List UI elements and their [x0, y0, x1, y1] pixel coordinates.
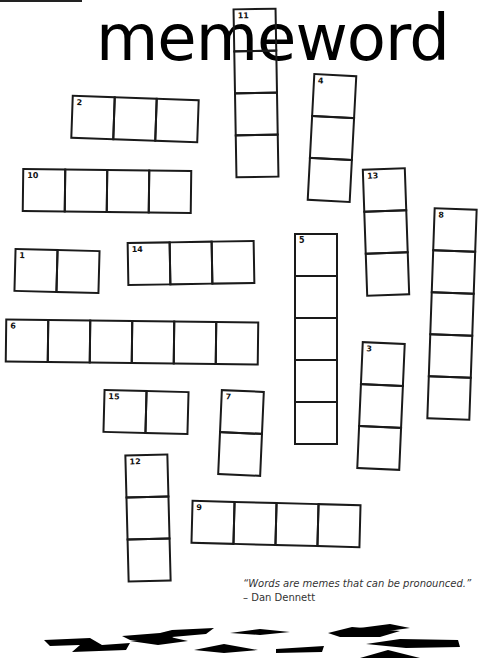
cell[interactable]	[154, 98, 200, 144]
word-15-across: 15	[102, 389, 189, 435]
cell[interactable]	[309, 115, 355, 161]
cell[interactable]: 14	[127, 241, 172, 286]
cell[interactable]	[173, 321, 218, 366]
word-12-down: 12	[124, 453, 171, 582]
word-10-across: 10	[22, 168, 193, 214]
clue-number: 10	[27, 172, 38, 180]
word-9-across: 9	[190, 500, 361, 548]
cell[interactable]: 10	[22, 168, 67, 213]
cell[interactable]: 9	[190, 500, 235, 545]
clue-number: 2	[76, 99, 82, 107]
cell[interactable]: 15	[102, 389, 147, 434]
cell[interactable]: 4	[311, 73, 357, 119]
clue-number: 13	[367, 172, 378, 180]
cell[interactable]	[426, 375, 472, 421]
cell[interactable]	[235, 134, 280, 179]
cell[interactable]: 8	[432, 207, 478, 253]
cell[interactable]	[363, 209, 409, 255]
cell[interactable]	[217, 431, 263, 477]
cell[interactable]	[169, 241, 214, 286]
word-1-across: 1	[13, 248, 100, 294]
cell[interactable]	[127, 537, 172, 582]
cell[interactable]	[294, 317, 338, 361]
cell[interactable]	[112, 96, 158, 142]
cell[interactable]: 12	[124, 453, 169, 498]
cell[interactable]	[316, 503, 361, 548]
cell[interactable]	[294, 401, 338, 445]
cell[interactable]	[356, 425, 402, 471]
cell[interactable]	[125, 495, 170, 540]
word-6-across: 6	[5, 318, 260, 365]
cell[interactable]	[211, 240, 256, 285]
cell[interactable]	[232, 501, 277, 546]
cell[interactable]	[429, 291, 475, 337]
clue-number: 1	[19, 252, 25, 260]
cell[interactable]	[215, 321, 260, 366]
cell[interactable]	[234, 92, 279, 137]
cell[interactable]	[106, 169, 151, 214]
cell[interactable]: 5	[294, 233, 338, 277]
cell[interactable]: 3	[360, 341, 406, 387]
clue-number: 9	[196, 504, 202, 512]
cell[interactable]: 6	[5, 318, 50, 363]
cell[interactable]	[294, 359, 338, 403]
cell[interactable]: 7	[219, 389, 265, 435]
quote: “Words are memes that can be pronounced.…	[243, 577, 471, 605]
cell[interactable]	[428, 333, 474, 379]
cell[interactable]: 13	[362, 167, 408, 213]
cell[interactable]	[148, 170, 193, 215]
scattered-tiles-decoration	[0, 610, 494, 658]
cell[interactable]	[233, 50, 278, 95]
word-7-down: 7	[217, 389, 265, 477]
cell[interactable]	[64, 168, 109, 213]
clue-number: 15	[108, 393, 119, 401]
cell[interactable]: 1	[13, 248, 58, 293]
clue-number: 7	[225, 393, 231, 401]
clue-number: 14	[132, 246, 143, 254]
clue-number: 5	[299, 237, 305, 245]
cell[interactable]	[365, 251, 411, 297]
cell[interactable]	[131, 320, 176, 365]
word-3-down: 3	[356, 341, 406, 471]
cell[interactable]	[89, 319, 134, 364]
top-bar	[0, 0, 82, 2]
cell[interactable]: 2	[70, 95, 116, 141]
quote-text: “Words are memes that can be pronounced.…	[243, 577, 471, 591]
cell[interactable]	[431, 249, 477, 295]
clue-number: 11	[238, 12, 249, 20]
word-2-across: 2	[70, 95, 199, 143]
cell[interactable]: 11	[233, 8, 278, 53]
word-11-down: 11	[233, 8, 280, 179]
cell[interactable]	[307, 157, 353, 203]
word-4-down: 4	[307, 73, 358, 203]
cell[interactable]	[55, 249, 100, 294]
cell[interactable]	[358, 383, 404, 429]
cell[interactable]	[144, 390, 189, 435]
clue-number: 3	[366, 345, 372, 353]
cell[interactable]	[274, 502, 319, 547]
cell[interactable]	[47, 319, 92, 364]
word-14-across: 14	[127, 240, 256, 286]
word-5-down: 5	[294, 233, 338, 445]
cell[interactable]	[294, 275, 338, 319]
word-8-down: 8	[426, 207, 477, 420]
word-13-down: 13	[362, 167, 410, 296]
clue-number: 6	[10, 323, 16, 331]
clue-number: 4	[318, 77, 324, 85]
clue-number: 12	[129, 458, 140, 466]
clue-number: 8	[438, 211, 444, 219]
quote-author: – Dan Dennett	[243, 591, 471, 605]
